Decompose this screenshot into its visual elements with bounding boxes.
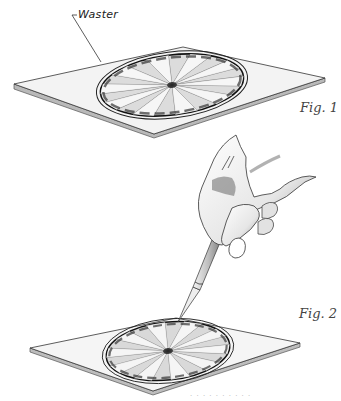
- figure-2-label: Fig. 2: [299, 306, 337, 321]
- hand: [198, 135, 316, 258]
- illustration-canvas: [0, 0, 341, 401]
- waster-leader-line: [72, 15, 101, 62]
- figure-1: [14, 15, 325, 138]
- cropped-caption-text: · · · · · · · · · ·: [190, 392, 251, 400]
- figure-1-label: Fig. 1: [300, 100, 338, 115]
- waster-label: Waster: [78, 8, 118, 21]
- figure-2: [30, 135, 316, 395]
